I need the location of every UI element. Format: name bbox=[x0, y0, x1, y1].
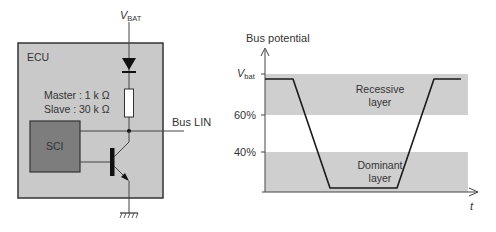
tick-label-vbat: Vbat bbox=[237, 68, 255, 81]
ground-icon bbox=[120, 213, 138, 218]
dominant-line-2: layer bbox=[345, 173, 415, 184]
dominant-line-1: Dominant bbox=[345, 160, 415, 171]
tick-label-40: 40% bbox=[234, 147, 256, 158]
recessive-line-2: layer bbox=[345, 97, 415, 108]
recessive-line-1: Recessive bbox=[345, 84, 415, 95]
x-axis-label: t bbox=[470, 201, 473, 212]
resistor-icon bbox=[125, 89, 134, 117]
supply-label-sub: BAT bbox=[127, 14, 141, 23]
ecu-label: ECU bbox=[27, 52, 49, 63]
y-axis-label: Bus potential bbox=[246, 33, 310, 44]
dominant-band-label: Dominant layer bbox=[345, 160, 415, 183]
resistor-note-master: Master : 1 k Ω bbox=[44, 90, 110, 101]
sci-label: SCI bbox=[46, 141, 64, 152]
bus-lin-label: Bus LIN bbox=[172, 117, 211, 128]
tick-label-vbat-sub: bat bbox=[244, 72, 254, 81]
resistor-note-slave: Slave : 30 k Ω bbox=[44, 104, 110, 115]
supply-label: VBAT bbox=[120, 10, 141, 23]
recessive-band-label: Recessive layer bbox=[345, 84, 415, 107]
tick-label-60: 60% bbox=[234, 110, 256, 121]
